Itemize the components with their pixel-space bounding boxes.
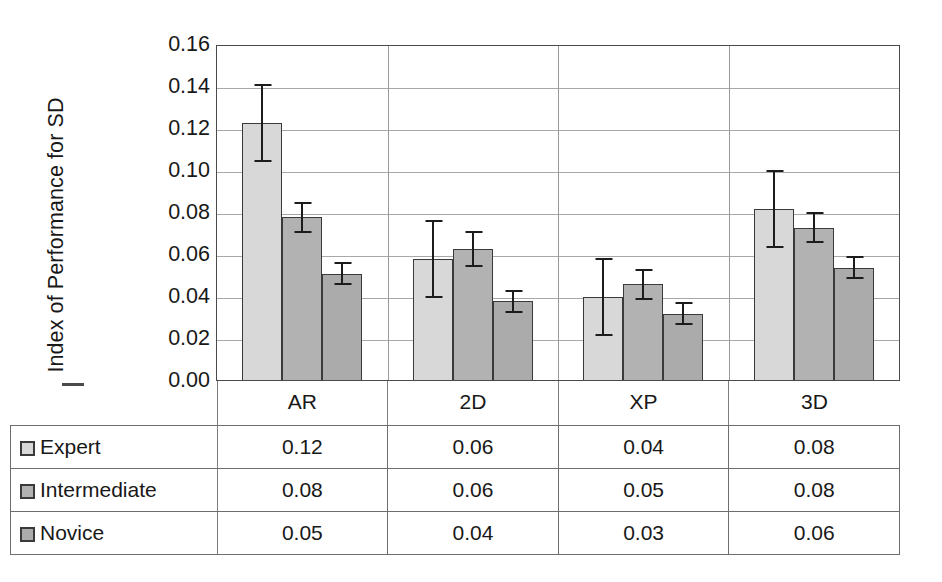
bar-intermediate-ar — [282, 217, 322, 381]
table-cell-novice-3d: 0.06 — [729, 512, 900, 555]
table-cell-intermediate-2d: 0.06 — [388, 469, 559, 512]
bar-groups — [217, 46, 899, 381]
chart-figure: Index of Performance for SD 0.160.140.12… — [0, 0, 942, 582]
bar-slot — [663, 46, 703, 381]
table-cell-novice-xp: 0.03 — [558, 512, 729, 555]
y-axis-title: Index of Performance for SD — [39, 55, 73, 415]
y-tick-label-3: 0.10 — [168, 160, 210, 182]
table-header-cat-2: XP — [558, 381, 729, 426]
table-row: Intermediate0.080.060.050.08 — [11, 469, 900, 512]
table-cell-intermediate-xp: 0.05 — [558, 469, 729, 512]
legend-item-intermediate: Intermediate — [11, 469, 218, 512]
legend-label: Expert — [40, 435, 101, 458]
legend-swatch-icon — [20, 441, 35, 456]
legend-label: Intermediate — [40, 478, 157, 501]
bar-intermediate-2d — [453, 249, 493, 381]
error-bar-novice-xp — [682, 303, 684, 324]
table-header-cat-3: 3D — [729, 381, 900, 426]
table-row: Novice0.050.040.030.06 — [11, 512, 900, 555]
bar-slot — [413, 46, 453, 381]
table-body: Expert0.120.060.040.08Intermediate0.080.… — [11, 426, 900, 555]
error-bar-expert-xp — [602, 259, 604, 335]
bar-slot — [493, 46, 533, 381]
bar-slot — [834, 46, 874, 381]
table-cell-intermediate-3d: 0.08 — [729, 469, 900, 512]
bar-novice-ar — [322, 274, 362, 381]
legend-swatch-icon — [20, 484, 35, 499]
y-tick-label-6: 0.04 — [168, 286, 210, 308]
legend-corner-dash-icon — [62, 383, 84, 386]
y-axis-title-text: Index of Performance for SD — [44, 97, 69, 372]
bar-cluster — [242, 46, 362, 381]
bar-novice-2d — [493, 301, 533, 381]
legend-item-expert: Expert — [11, 426, 218, 469]
bar-slot — [583, 46, 623, 381]
y-tick-label-5: 0.06 — [168, 244, 210, 266]
legend-label: Novice — [40, 521, 104, 544]
bar-group-ar — [217, 46, 388, 381]
table-header-cat-0: AR — [217, 381, 388, 426]
bar-cluster — [754, 46, 874, 381]
y-axis-tick-labels: 0.160.140.120.100.080.060.040.020.00 — [128, 0, 210, 400]
bar-slot — [322, 46, 362, 381]
table-cell-expert-3d: 0.08 — [729, 426, 900, 469]
bar-slot — [794, 46, 834, 381]
bar-group-2d — [388, 46, 559, 381]
table-cell-expert-xp: 0.04 — [558, 426, 729, 469]
table-row: Expert0.120.060.040.08 — [11, 426, 900, 469]
table-cell-novice-ar: 0.05 — [217, 512, 388, 555]
y-tick-label-2: 0.12 — [168, 118, 210, 140]
y-tick-label-4: 0.08 — [168, 202, 210, 224]
bar-slot — [453, 46, 493, 381]
error-bar-intermediate-2d — [472, 232, 474, 266]
table-cell-novice-2d: 0.04 — [388, 512, 559, 555]
error-bar-expert-2d — [432, 221, 434, 297]
table-header-cat-1: 2D — [388, 381, 559, 426]
table-cell-intermediate-ar: 0.08 — [217, 469, 388, 512]
bar-intermediate-3d — [794, 228, 834, 381]
bar-group-xp — [558, 46, 729, 381]
bar-novice-3d — [834, 268, 874, 381]
error-bar-intermediate-3d — [813, 213, 815, 242]
legend-swatch-icon — [20, 527, 35, 542]
data-table: AR 2D XP 3D Expert0.120.060.040.08Interm… — [10, 381, 900, 553]
error-bar-expert-ar — [261, 85, 263, 161]
bar-slot — [754, 46, 794, 381]
error-bar-novice-3d — [853, 257, 855, 278]
y-tick-label-1: 0.14 — [168, 76, 210, 98]
error-bar-expert-3d — [773, 171, 775, 247]
error-bar-novice-2d — [512, 291, 514, 312]
bar-slot — [623, 46, 663, 381]
plot-area — [216, 45, 900, 381]
bar-cluster — [413, 46, 533, 381]
error-bar-intermediate-xp — [642, 270, 644, 299]
y-tick-label-0: 0.16 — [168, 34, 210, 56]
bar-slot — [282, 46, 322, 381]
error-bar-novice-ar — [341, 263, 343, 284]
legend-item-novice: Novice — [11, 512, 218, 555]
table-cell-expert-ar: 0.12 — [217, 426, 388, 469]
data-table-grid: AR 2D XP 3D Expert0.120.060.040.08Interm… — [10, 381, 900, 555]
error-bar-intermediate-ar — [301, 203, 303, 232]
y-tick-label-7: 0.02 — [168, 328, 210, 350]
bar-slot — [242, 46, 282, 381]
bar-cluster — [583, 46, 703, 381]
table-corner-cell — [11, 381, 218, 426]
table-header-row: AR 2D XP 3D — [11, 381, 900, 426]
bar-group-3d — [729, 46, 900, 381]
table-cell-expert-2d: 0.06 — [388, 426, 559, 469]
